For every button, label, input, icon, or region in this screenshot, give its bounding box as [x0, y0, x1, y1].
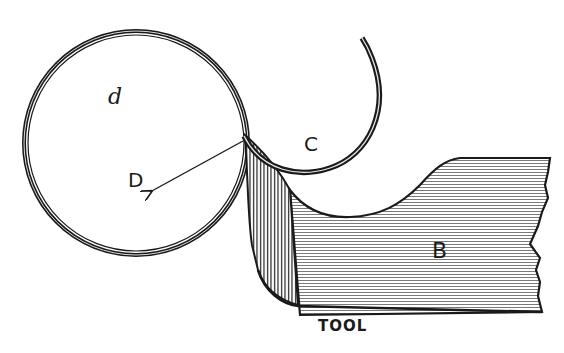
label-tool-caption: TOOL [318, 319, 367, 334]
label-work-circle: d [108, 86, 122, 108]
diagram-drawing [0, 0, 564, 353]
radius-arrow [150, 141, 243, 192]
work-circle [24, 31, 248, 255]
label-tool-body: B [432, 240, 447, 262]
tool-side-face [245, 135, 298, 305]
label-chip: C [304, 134, 318, 154]
tool-body [290, 158, 550, 315]
label-radius-point: D [128, 170, 143, 190]
diagram-canvas: d D C B TOOL [0, 0, 564, 353]
